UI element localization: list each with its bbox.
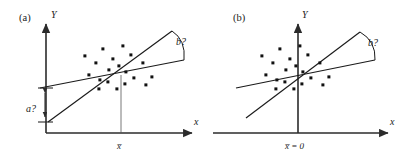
data-point bbox=[298, 44, 301, 47]
panel-a: (a) Y x x̅ a? b? bbox=[19, 9, 199, 151]
panel-b-y-axis-label: Y bbox=[302, 9, 309, 20]
data-point bbox=[117, 64, 120, 67]
data-point bbox=[132, 76, 135, 79]
panel-a-y-axis-label: Y bbox=[51, 9, 58, 20]
figure-canvas: (a) Y x x̅ a? b? bbox=[0, 0, 405, 158]
panel-b-x-tick-label: x̅ = 0 bbox=[284, 141, 305, 151]
data-point bbox=[306, 53, 309, 56]
panel-b-slope-label: b? bbox=[368, 37, 378, 48]
data-point bbox=[275, 78, 278, 81]
data-point bbox=[107, 68, 110, 71]
data-point bbox=[144, 83, 147, 86]
data-point bbox=[318, 61, 321, 64]
data-point bbox=[129, 53, 132, 56]
data-point bbox=[150, 75, 153, 78]
panel-b-caption: (b) bbox=[233, 12, 246, 24]
data-point bbox=[294, 64, 297, 67]
panel-a-x-axis-label: x bbox=[193, 116, 199, 127]
data-point bbox=[283, 80, 286, 83]
data-point bbox=[111, 57, 114, 60]
data-point bbox=[301, 70, 304, 73]
data-point bbox=[327, 75, 330, 78]
panel-a-scatter bbox=[83, 44, 153, 90]
panel-a-least-squares-line bbox=[40, 60, 184, 88]
panel-a-slope-label: b? bbox=[176, 36, 186, 47]
data-point bbox=[141, 61, 144, 64]
data-point bbox=[271, 61, 274, 64]
data-point bbox=[278, 47, 281, 50]
panel-b-scatter bbox=[260, 44, 330, 90]
data-point bbox=[264, 73, 267, 76]
data-point bbox=[87, 73, 90, 76]
data-point bbox=[115, 87, 118, 90]
data-point bbox=[300, 82, 303, 85]
data-point bbox=[284, 68, 287, 71]
regression-figure: (a) Y x x̅ a? b? bbox=[0, 0, 405, 158]
panel-b-x-axis-label: x bbox=[389, 116, 395, 127]
data-point bbox=[274, 87, 277, 90]
data-point bbox=[260, 54, 263, 57]
data-point bbox=[288, 57, 291, 60]
data-point bbox=[321, 83, 324, 86]
data-point bbox=[97, 87, 100, 90]
panel-b: (b) Y x x̅ = 0 b? bbox=[213, 9, 395, 151]
data-point bbox=[292, 87, 295, 90]
data-point bbox=[106, 80, 109, 83]
data-point bbox=[83, 54, 86, 57]
data-point bbox=[309, 76, 312, 79]
panel-a-caption: (a) bbox=[19, 12, 31, 24]
panel-b-least-squares-line bbox=[236, 60, 375, 88]
data-point bbox=[123, 82, 126, 85]
data-point bbox=[98, 78, 101, 81]
panel-a-x-tick-label: x̅ bbox=[116, 141, 122, 151]
data-point bbox=[94, 61, 97, 64]
data-point bbox=[101, 47, 104, 50]
data-point bbox=[124, 70, 127, 73]
panel-a-intercept-label: a? bbox=[26, 103, 36, 114]
data-point bbox=[121, 44, 124, 47]
